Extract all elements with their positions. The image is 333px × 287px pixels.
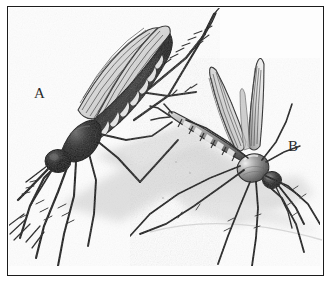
mosquito-illustration <box>0 0 333 287</box>
illustration-plate: A B <box>0 0 333 287</box>
figure-label-a: A <box>34 86 45 101</box>
figure-label-b: B <box>288 139 299 154</box>
